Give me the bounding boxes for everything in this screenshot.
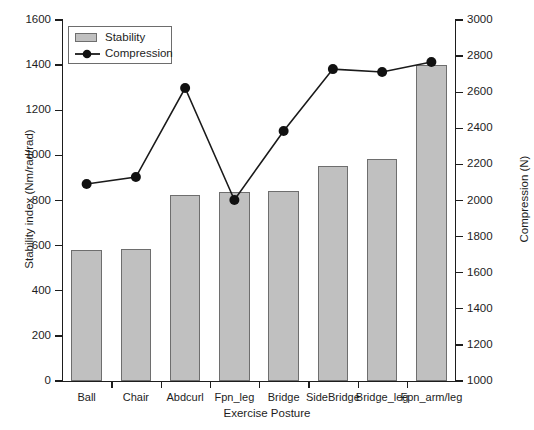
left-axis-title: Stability index (Nm/rad/rad) xyxy=(23,84,35,314)
compression-data-point: Chair: 2130 xyxy=(131,172,141,182)
line-series-compression: Ball: 2091Chair: 2130Abdcurl: 2623Fpn_le… xyxy=(0,0,534,430)
chart-legend: Stability Compression xyxy=(68,26,172,64)
legend-item-stability: Stability xyxy=(73,30,171,45)
x-axis-title: Exercise Posture xyxy=(0,407,534,419)
compression-data-point: Ball: 2091 xyxy=(82,179,92,189)
compression-data-point: SideBridge: 2728 xyxy=(328,64,338,74)
compression-data-point: Fpn_arm/leg: 2767 xyxy=(426,57,436,67)
compression-data-point: Bridge_leg: 2712 xyxy=(377,67,387,77)
chart-figure: 02004006008001000120014001600 1000120014… xyxy=(0,0,534,430)
legend-swatch-icon xyxy=(75,33,97,42)
compression-data-point: Abdcurl: 2623 xyxy=(180,83,190,93)
compression-data-point: Fpn_leg: 2003 xyxy=(229,195,239,205)
legend-item-compression: Compression xyxy=(73,46,171,61)
right-axis-title: Compression (N) xyxy=(518,84,530,314)
legend-label-stability: Stability xyxy=(105,31,145,44)
legend-line-marker-icon xyxy=(73,46,103,61)
compression-data-point: Bridge: 2385 xyxy=(279,126,289,136)
legend-label-compression: Compression xyxy=(105,47,173,60)
